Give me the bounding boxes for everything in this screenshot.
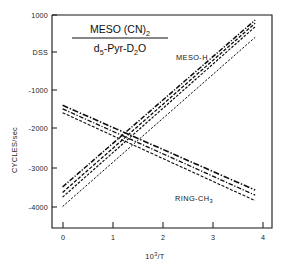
title-denominator-p2: -Pyr-D: [104, 42, 135, 54]
series-annotation-ring-ch3-main: RING-CH: [175, 194, 209, 203]
x-tick-label-0: 0: [61, 233, 65, 242]
x-axis-title-tail: /T: [157, 252, 164, 261]
y-tick-label-m1000: -1000: [29, 86, 48, 95]
x-tick-label-1: 1: [111, 233, 115, 242]
x-tick-label-2: 2: [161, 233, 165, 242]
y-tick-label-m2000: -2000: [29, 124, 48, 133]
x-axis-title-main: 10: [145, 252, 154, 261]
y-tick-label-m4000: -4000: [29, 203, 48, 212]
x-tick-label-4: 4: [261, 233, 265, 242]
y-axis-title: CYCLES/sec: [10, 127, 19, 173]
series-annotation-ring-ch3: RING-CH3: [175, 194, 213, 204]
title-denominator-p3: O: [138, 42, 146, 54]
y-tick-label-m3000: -3000: [29, 164, 48, 173]
series-annotation-meso-h: MESO-H: [176, 53, 208, 62]
series-annotation-ring-ch3-sub: 3: [209, 198, 213, 204]
y-tick-label-1000: 1000: [31, 11, 48, 20]
title-numerator-sub: 2: [146, 29, 150, 38]
x-tick-label-3: 3: [211, 233, 215, 242]
chart-figure: 1000 DSS -1000 -2000 -3000 -4000 0 1 2 3…: [0, 0, 283, 275]
arrhenius-plot-svg: 1000 DSS -1000 -2000 -3000 -4000 0 1 2 3…: [0, 0, 283, 275]
title-numerator-main: MESO (CN): [90, 23, 146, 35]
y-tick-label-dss: DSS: [33, 48, 48, 57]
